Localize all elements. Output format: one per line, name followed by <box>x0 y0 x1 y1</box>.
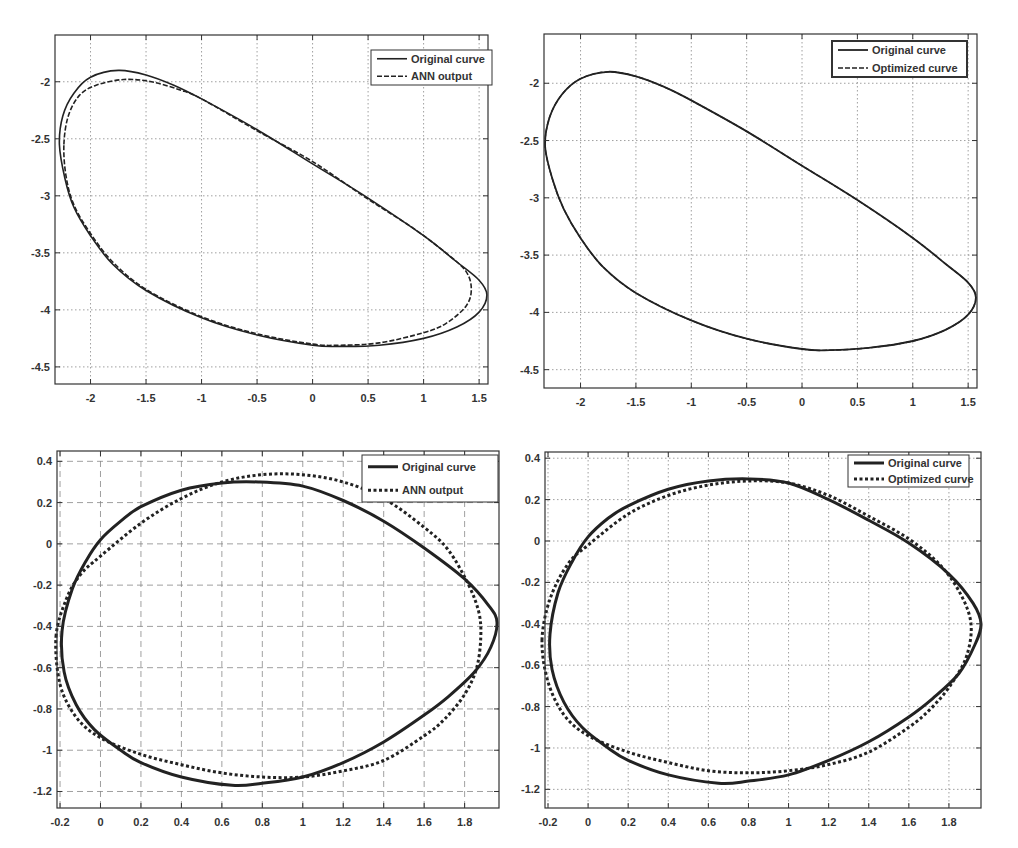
x-tick-label: 1 <box>785 816 791 828</box>
legend: Original curveANN output <box>362 455 498 502</box>
x-tick-label: 1.4 <box>861 816 877 828</box>
y-tick-label: -2 <box>529 77 539 89</box>
y-tick-label: -2 <box>40 76 50 88</box>
plot-area <box>545 452 981 808</box>
chart-top-right: -2-1.5-1-0.500.511.5-2-2.5-3-3.5-4-4.5Or… <box>520 34 977 408</box>
y-tick-label: -1 <box>530 742 540 754</box>
x-tick-label: 1 <box>300 816 306 828</box>
x-tick-label: 1.6 <box>417 816 432 828</box>
y-tick-label: -3 <box>40 190 50 202</box>
x-tick-label: 0 <box>585 816 591 828</box>
plot-area <box>544 34 977 388</box>
x-tick-label: 1.4 <box>376 816 392 828</box>
y-tick-label: -0.2 <box>33 579 52 591</box>
y-tick-label: -0.8 <box>521 701 540 713</box>
x-tick-label: 0.5 <box>360 392 375 404</box>
x-tick-label: -1.5 <box>626 396 645 408</box>
x-tick-label: -1 <box>197 392 207 404</box>
y-tick-label: -0.4 <box>521 618 541 630</box>
x-tick-label: 0.4 <box>174 816 190 828</box>
x-tick-label: 1.2 <box>336 816 351 828</box>
y-tick-label: -1.2 <box>521 783 540 795</box>
x-tick-label: 0.8 <box>741 816 756 828</box>
legend: Original curveOptimized curve <box>832 41 967 77</box>
legend: Original curveANN output <box>371 50 492 85</box>
y-tick-label: -4.5 <box>31 361 50 373</box>
legend-label: Optimized curve <box>872 62 958 74</box>
y-tick-label: -2.5 <box>31 133 50 145</box>
x-tick-label: 1.5 <box>960 396 975 408</box>
figure-canvas: -2-1.5-1-0.500.511.5-2-2.5-3-3.5-4-4.5Or… <box>0 0 1018 848</box>
x-tick-label: 1.2 <box>821 816 836 828</box>
y-tick-label: -1 <box>42 744 52 756</box>
x-tick-label: 0.2 <box>621 816 636 828</box>
y-tick-label: -0.2 <box>521 576 540 588</box>
x-tick-label: 0.8 <box>255 816 270 828</box>
y-tick-label: 0 <box>46 538 52 550</box>
y-tick-label: -1.2 <box>33 785 52 797</box>
x-tick-label: -0.5 <box>248 392 267 404</box>
x-tick-label: 0.6 <box>701 816 716 828</box>
x-tick-label: -0.5 <box>737 396 756 408</box>
y-tick-label: 0.2 <box>37 497 52 509</box>
y-tick-label: -0.4 <box>33 620 53 632</box>
y-tick-label: 0.4 <box>525 452 541 464</box>
x-tick-label: -2 <box>576 396 586 408</box>
y-tick-label: -4 <box>529 306 540 318</box>
y-tick-label: -4.5 <box>520 364 539 376</box>
x-tick-label: 1 <box>910 396 916 408</box>
legend-label: Optimized curve <box>888 473 974 485</box>
y-tick-label: -3 <box>529 192 539 204</box>
chart-bottom-left: -0.200.20.40.60.811.21.41.61.80.40.20-0.… <box>33 451 499 828</box>
y-tick-label: -0.6 <box>33 662 52 674</box>
legend-label: Original curve <box>888 457 962 469</box>
x-tick-label: 1.8 <box>941 816 956 828</box>
legend-label: ANN output <box>402 484 463 496</box>
y-tick-label: -2.5 <box>520 135 539 147</box>
y-tick-label: -3.5 <box>31 247 50 259</box>
x-tick-label: 0.2 <box>133 816 148 828</box>
y-tick-label: 0 <box>534 535 540 547</box>
x-tick-label: -1.5 <box>137 392 156 404</box>
x-tick-label: -0.2 <box>51 816 70 828</box>
y-tick-label: 0.4 <box>37 455 53 467</box>
y-tick-label: -3.5 <box>520 249 539 261</box>
x-tick-label: 0.5 <box>850 396 865 408</box>
y-tick-label: -0.6 <box>521 659 540 671</box>
legend-label: Original curve <box>872 44 946 56</box>
x-tick-label: 1.6 <box>901 816 916 828</box>
x-tick-label: 0 <box>97 816 103 828</box>
plot-area <box>55 35 488 384</box>
x-tick-label: 0.6 <box>214 816 229 828</box>
x-tick-label: -0.2 <box>539 816 558 828</box>
x-tick-label: 1.8 <box>457 816 472 828</box>
plot-area <box>57 451 499 808</box>
legend: Original curveOptimized curve <box>848 455 974 487</box>
x-tick-label: 1 <box>421 392 427 404</box>
y-tick-label: -4 <box>40 304 51 316</box>
x-tick-label: -2 <box>86 392 96 404</box>
y-tick-label: -0.8 <box>33 703 52 715</box>
x-tick-label: 1.5 <box>471 392 486 404</box>
legend-label: ANN output <box>411 70 472 82</box>
figure-2x2-grid: -2-1.5-1-0.500.511.5-2-2.5-3-3.5-4-4.5Or… <box>0 0 1018 848</box>
x-tick-label: 0 <box>799 396 805 408</box>
x-tick-label: 0.4 <box>661 816 677 828</box>
y-tick-label: 0.2 <box>525 494 540 506</box>
chart-bottom-right: -0.200.20.40.60.811.21.41.61.80.40.20-0.… <box>521 452 981 828</box>
x-tick-label: -1 <box>686 396 696 408</box>
legend-label: Original curve <box>411 53 485 65</box>
x-tick-label: 0 <box>310 392 316 404</box>
legend-label: Original curve <box>402 461 476 473</box>
chart-top-left: -2-1.5-1-0.500.511.5-2-2.5-3-3.5-4-4.5Or… <box>31 35 492 404</box>
